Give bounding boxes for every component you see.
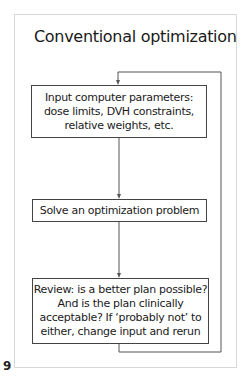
arrow-input-to-solve — [117, 138, 121, 199]
arrowhead-icon — [117, 273, 121, 278]
arrowhead-icon — [116, 80, 120, 85]
arrowhead-icon — [117, 194, 121, 199]
arrow-solve-to-review — [117, 222, 121, 278]
connector-arrows — [0, 0, 251, 378]
feedback-loop-arrow — [116, 72, 221, 352]
page-number: 9 — [3, 359, 11, 373]
